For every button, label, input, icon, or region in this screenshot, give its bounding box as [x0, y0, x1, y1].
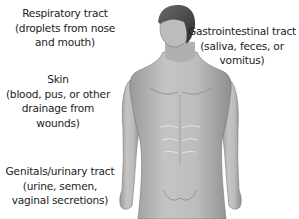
- label-genitals-urinary: Genitals/urinary tract (urine, semen, va…: [0, 164, 120, 208]
- label-title: Skin: [2, 72, 114, 87]
- label-title: Genitals/urinary tract: [0, 164, 120, 179]
- label-skin: Skin (blood, pus, or other drainage from…: [2, 72, 114, 130]
- label-title: Respiratory tract: [2, 6, 128, 21]
- torso: [130, 52, 232, 219]
- label-gastrointestinal: Gastrointestinal tract (saliva, feces, o…: [185, 24, 299, 68]
- label-title: Gastrointestinal tract: [185, 24, 299, 39]
- label-respiratory: Respiratory tract (droplets from nose an…: [2, 6, 128, 50]
